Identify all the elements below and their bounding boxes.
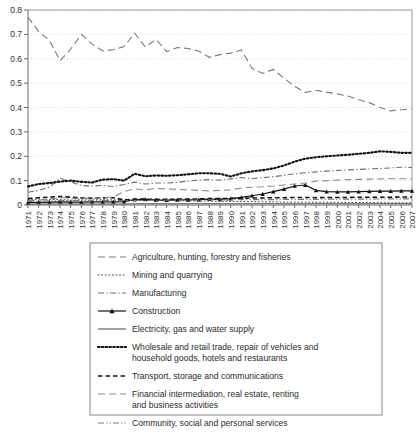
x-tick-label: 1971 [24, 210, 33, 228]
series-line-0 [28, 17, 412, 111]
x-tick-label: 2005 [387, 210, 396, 228]
y-tick-label: 0.2 [10, 151, 22, 161]
x-tick-label: 1987 [195, 210, 204, 228]
x-tick-label: 1978 [99, 210, 108, 228]
y-tick-label: 0.7 [10, 29, 22, 39]
x-tick-label: 1991 [238, 210, 247, 228]
x-tick-label: 1986 [184, 210, 193, 228]
x-tick-label: 1989 [216, 210, 225, 228]
y-tick-label: 0.4 [10, 103, 22, 113]
x-tick-label: 1996 [291, 210, 300, 228]
x-tick-label: 1974 [56, 210, 65, 228]
x-tick-label: 2001 [344, 210, 353, 228]
x-tick-label: 1981 [131, 210, 140, 228]
legend-label-7: Financial intermediation, real estate, r… [132, 389, 299, 399]
x-tick-label: 1994 [270, 210, 279, 228]
line-chart-plot: 00.10.20.30.40.50.60.70.8197119721973197… [0, 0, 420, 439]
x-tick-label: 1972 [35, 210, 44, 228]
y-tick-label: 0 [17, 200, 22, 210]
legend-label-8: Community, social and personal services [132, 418, 288, 428]
y-tick-label: 0.1 [10, 176, 22, 186]
x-tick-label: 1993 [259, 210, 268, 228]
x-tick-label: 1998 [312, 210, 321, 228]
x-tick-label: 2000 [334, 210, 343, 228]
x-tick-label: 1973 [46, 210, 55, 228]
x-tick-label: 1990 [227, 210, 236, 228]
x-tick-label: 1976 [78, 210, 87, 228]
series-line-5 [28, 151, 412, 186]
y-tick-label: 0.6 [10, 54, 22, 64]
y-tick-label: 0.5 [10, 78, 22, 88]
series-group [26, 17, 414, 204]
legend-label-0: Agriculture, hunting, forestry and fishe… [132, 252, 291, 262]
x-tick-label: 1985 [174, 210, 183, 228]
legend: Agriculture, hunting, forestry and fishe… [90, 243, 382, 428]
x-tick-label: 2004 [376, 210, 385, 228]
x-tick-label: 2002 [355, 210, 364, 228]
x-tick-label: 1982 [142, 210, 151, 228]
x-tick-label: 1995 [280, 210, 289, 228]
legend-label-4: Electricity, gas and water supply [132, 324, 255, 334]
x-tick-label: 1997 [302, 210, 311, 228]
x-tick-label: 1984 [163, 210, 172, 228]
series-line-2 [28, 167, 412, 192]
x-tick-label: 1980 [120, 210, 129, 228]
legend-label-3: Construction [132, 306, 180, 316]
x-tick-label: 1992 [248, 210, 257, 228]
legend-label-2: Manufacturing [132, 288, 187, 298]
x-tick-label: 2006 [398, 210, 407, 228]
y-tick-label: 0.3 [10, 127, 22, 137]
legend-label-1: Mining and quarrying [132, 270, 212, 280]
x-axis-labels: 1971197219731974197519761977197819791980… [24, 205, 417, 229]
legend-label-5: Wholesale and retail trade, repair of ve… [132, 342, 319, 352]
legend-label-6: Transport, storage and communications [132, 371, 283, 381]
x-tick-label: 1975 [67, 210, 76, 228]
x-tick-label: 1988 [206, 210, 215, 228]
legend-label-5-line2: household goods, hotels and restaurants [132, 353, 287, 363]
x-tick-label: 1977 [88, 210, 97, 228]
y-tick-label: 0.8 [10, 5, 22, 15]
x-tick-label: 1999 [323, 210, 332, 228]
x-tick-label: 2007 [408, 210, 417, 228]
x-tick-label: 1979 [110, 210, 119, 228]
chart-figure: 00.10.20.30.40.50.60.70.8197119721973197… [0, 0, 420, 439]
y-gridlines: 00.10.20.30.40.50.60.70.8 [10, 5, 412, 210]
legend-label-7-line2: and business activities [132, 400, 218, 410]
x-tick-label: 1983 [152, 210, 161, 228]
x-tick-label: 2003 [366, 210, 375, 228]
